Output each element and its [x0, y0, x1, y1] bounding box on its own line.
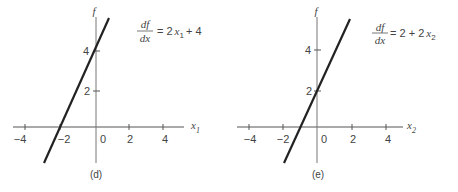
svg-text:df: df	[376, 21, 387, 33]
x-tick-label: 4	[162, 133, 168, 145]
svg-text:= 2 + 2x2: = 2 + 2x2	[390, 27, 436, 42]
figure: −4 −2 0 2 4 4 2 f x1 df dx = 2x1+ 4 (d)	[0, 0, 458, 192]
x-tick-label: −2	[277, 133, 290, 145]
x-tick-label: 0	[100, 133, 106, 145]
x-axis-label: x1	[190, 119, 200, 135]
y-tick-label: 2	[84, 85, 90, 97]
svg-text:dx: dx	[140, 32, 151, 44]
x-tick-label: −4	[14, 133, 27, 145]
x-tick-label: −4	[244, 133, 257, 145]
y-axis-label: f	[314, 5, 319, 17]
panel-e: −4 −2 0 2 4 4 2 f x2 df dx = 2 + 2x2 (e)	[237, 5, 436, 180]
x-tick-label: −2	[58, 133, 71, 145]
svg-text:= 2x1+ 4: = 2x1+ 4	[157, 25, 202, 40]
equation: df dx = 2x1+ 4	[137, 18, 202, 44]
panel-caption: (e)	[312, 169, 324, 180]
x-tick-label: 4	[385, 133, 391, 145]
x-axis-label: x2	[406, 119, 416, 135]
panel-caption: (d)	[90, 169, 102, 180]
x-tick-label: 0	[321, 133, 327, 145]
equation: df dx = 2 + 2x2	[372, 21, 436, 46]
y-axis-label: f	[92, 5, 97, 17]
x-tick-label: 2	[350, 133, 356, 145]
svg-text:dx: dx	[375, 34, 386, 46]
y-tick-label: 2	[306, 85, 312, 97]
y-tick-label: 4	[305, 44, 311, 56]
y-tick-label: 4	[83, 45, 89, 57]
svg-text:df: df	[141, 18, 152, 30]
x-tick-label: 2	[127, 133, 133, 145]
panel-d: −4 −2 0 2 4 4 2 f x1 df dx = 2x1+ 4 (d)	[13, 5, 202, 180]
